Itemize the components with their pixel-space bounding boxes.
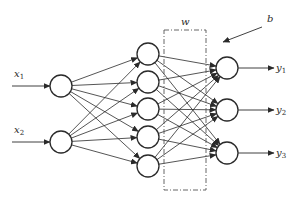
hidden-node [137, 98, 159, 120]
output-label-y1: y1 [275, 62, 286, 75]
hidden-node [137, 126, 159, 148]
hidden-output-edge [159, 155, 216, 164]
bias-label: b [267, 13, 273, 24]
input-hidden-edge [69, 62, 141, 134]
output-node [216, 99, 238, 121]
input-hidden-edge [71, 58, 137, 82]
output-node [216, 142, 238, 164]
weight-label: w [181, 16, 190, 27]
hidden-output-edge [156, 75, 218, 130]
input-label-x2: x2 [14, 124, 24, 137]
input-node [50, 131, 72, 153]
hidden-output-edge [159, 139, 216, 151]
hidden-output-edge [157, 116, 218, 159]
output-label-y3: y3 [275, 147, 286, 160]
hidden-node [137, 155, 159, 177]
hidden-node [137, 71, 159, 93]
output-label-y2: y2 [275, 104, 286, 117]
input-label-x1: x1 [14, 68, 24, 81]
hidden-output-edge [159, 70, 216, 80]
input-hidden-edge [72, 138, 137, 142]
hidden-output-edge [159, 56, 216, 66]
hidden-node [137, 43, 159, 65]
hidden-output-edge [157, 60, 218, 103]
input-node [50, 75, 72, 97]
neural-network-diagram: x1x2y1y2y3 w b [0, 0, 297, 203]
input-hidden-edge [70, 88, 139, 136]
input-hidden-edge [72, 83, 137, 86]
hidden-output-edge [159, 109, 216, 110]
output-node [216, 57, 238, 79]
bias-arrow [223, 27, 262, 42]
